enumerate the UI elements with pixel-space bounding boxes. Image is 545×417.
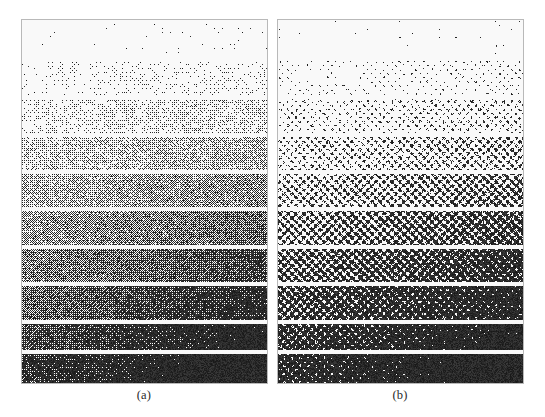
dither-canvas-b: [278, 20, 523, 383]
dither-canvas-a: [22, 20, 267, 383]
figure-root: (a) (b): [0, 0, 545, 417]
panel-b-caption: (b): [370, 388, 430, 403]
panel-a-caption: (a): [114, 388, 174, 403]
dither-panel-a: [21, 19, 268, 384]
dither-panel-b: [277, 19, 524, 384]
